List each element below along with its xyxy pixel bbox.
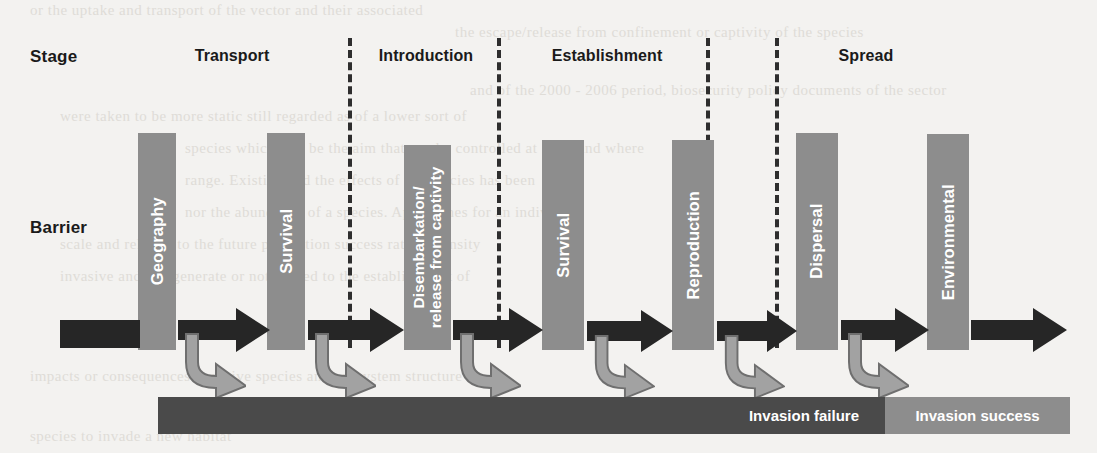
branch-arrow-6: [845, 332, 909, 400]
barrier-bar-label: Environmental: [939, 184, 957, 300]
figure-canvas: or the uptake and transport of the vecto…: [0, 0, 1097, 453]
barrier-bar-label: Disembarkation/ release from captivity: [410, 167, 445, 329]
ghost-text: the escape/release from confinement or c…: [455, 24, 864, 41]
stage-header-spread: Spread: [800, 47, 932, 65]
barrier-bar-dispersal[interactable]: Dispersal: [796, 133, 838, 350]
branch-arrow-1: [182, 332, 246, 400]
ghost-text: were taken to be more static still regar…: [60, 108, 467, 125]
stage-divider-1: [348, 38, 352, 348]
ghost-text: impacts or consequences to native specie…: [30, 368, 462, 385]
barrier-bar-label: Survival: [554, 212, 572, 277]
outcome-bar: Invasion failure Invasion success: [158, 397, 1070, 434]
ghost-text: or the uptake and transport of the vecto…: [30, 2, 1070, 19]
stage-divider-2: [497, 38, 501, 348]
ghost-text: range. Existing and the effects of the s…: [185, 172, 535, 189]
stage-header-transport: Transport: [152, 47, 312, 65]
barrier-bar-environmental[interactable]: Environmental: [927, 134, 969, 350]
barrier-bar-disembarkation[interactable]: Disembarkation/ release from captivity: [404, 145, 451, 350]
barrier-bar-geography[interactable]: Geography: [138, 133, 176, 350]
outcome-invasion-failure[interactable]: Invasion failure: [158, 397, 885, 434]
barrier-bar-label: Reproduction: [684, 191, 702, 299]
stage-divider-4: [775, 38, 779, 348]
barrier-bar-survival-2[interactable]: Survival: [542, 140, 584, 350]
barrier-bar-label: Survival: [277, 209, 295, 274]
flow-arrow-start: [60, 314, 140, 354]
barrier-bar-label: Geography: [148, 197, 166, 285]
outcome-invasion-success[interactable]: Invasion success: [885, 397, 1070, 434]
stage-header-establishment: Establishment: [512, 47, 702, 65]
ghost-text: nor the abundance of a species. Approach…: [185, 204, 581, 221]
stage-header-introduction: Introduction: [354, 47, 498, 65]
flow-arrow-out: [971, 308, 1067, 356]
branch-arrow-3: [457, 332, 521, 400]
branch-arrow-4: [591, 334, 655, 400]
row-label-stage: Stage: [30, 47, 77, 67]
barrier-bar-survival-1[interactable]: Survival: [267, 133, 305, 350]
barrier-bar-label: Dispersal: [808, 204, 826, 279]
branch-arrow-2: [312, 332, 376, 400]
branch-arrow-5: [721, 334, 785, 400]
row-label-barrier: Barrier: [30, 218, 87, 238]
barrier-bar-reproduction[interactable]: Reproduction: [672, 140, 714, 350]
